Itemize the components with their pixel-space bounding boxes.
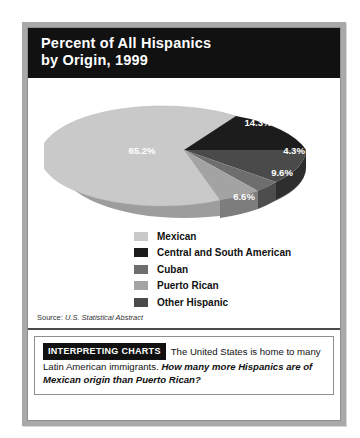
figure-title-bar: Percent of All Hispanics by Origin, 1999 [28, 28, 340, 78]
interpreting-charts-box: INTERPRETING CHARTSThe United States is … [34, 336, 334, 395]
chart-legend: Mexican Central and South American Cuban… [134, 228, 291, 311]
legend-item-cuban: Cuban [134, 261, 291, 278]
legend-label-mexican: Mexican [157, 231, 196, 242]
legend-label-cuban: Cuban [157, 264, 188, 275]
source-prefix: Source: [37, 313, 65, 322]
figure-frame-inner: Percent of All Hispanics by Origin, 1999 [27, 27, 341, 421]
caption-text: INTERPRETING CHARTSThe United States is … [43, 343, 325, 387]
source-name: U.S. Statistical Abstract [65, 313, 143, 322]
pie-label-other-hispanic: 6.6% [233, 191, 255, 202]
pie-label-mexican: 65.2% [129, 145, 156, 156]
legend-swatch-icon-puerto-rican [134, 281, 148, 290]
legend-label-puerto-rican: Puerto Rican [157, 280, 219, 291]
legend-swatch-icon-other-hispanic [134, 298, 148, 307]
chart-area: 65.2% 14.3% 4.3% 9.6% 6.6% Mexican [28, 78, 340, 328]
figure-page: Percent of All Hispanics by Origin, 1999 [0, 0, 360, 438]
legend-swatch-icon-cuban [134, 265, 148, 274]
legend-swatch-icon-mexican [134, 232, 148, 241]
pie-label-puerto-rican: 9.6% [271, 167, 293, 178]
source-note: Source: U.S. Statistical Abstract [37, 313, 143, 322]
pie-chart-svg: 65.2% 14.3% 4.3% 9.6% 6.6% [44, 78, 324, 230]
pie-label-cuban: 4.3% [283, 145, 305, 156]
legend-label-central-south-american: Central and South American [157, 247, 291, 258]
pie-label-central-south-american: 14.3% [245, 117, 272, 128]
pie-chart: 65.2% 14.3% 4.3% 9.6% 6.6% [28, 78, 340, 230]
caption-zone: INTERPRETING CHARTSThe United States is … [28, 330, 340, 402]
legend-label-other-hispanic: Other Hispanic [157, 297, 228, 308]
figure-title-line-2: by Origin, 1999 [41, 52, 327, 69]
legend-swatch-icon-central-south-american [134, 248, 148, 257]
legend-item-central-south-american: Central and South American [134, 245, 291, 262]
legend-item-mexican: Mexican [134, 228, 291, 245]
figure-frame: Percent of All Hispanics by Origin, 1999 [22, 22, 346, 426]
interpreting-charts-badge: INTERPRETING CHARTS [43, 343, 166, 360]
legend-item-puerto-rican: Puerto Rican [134, 278, 291, 295]
figure-title-line-1: Percent of All Hispanics [41, 35, 327, 52]
legend-item-other-hispanic: Other Hispanic [134, 294, 291, 311]
